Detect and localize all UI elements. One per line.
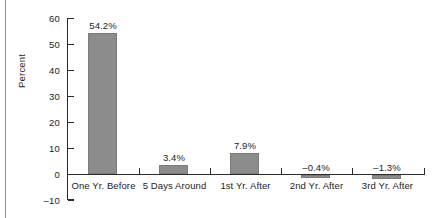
bar-value-label-3rd-yr-after: –1.3%	[362, 162, 412, 173]
bar-1st-yr-after	[230, 153, 259, 174]
y-tick-label: 10	[20, 143, 60, 154]
x-tick-mark	[210, 168, 211, 175]
x-category-label-2nd-yr-after: 2nd Yr. After	[281, 180, 352, 191]
bar-3rd-yr-after	[372, 175, 401, 179]
bar-value-label-one-yr-before: 54.2%	[78, 20, 128, 31]
x-category-label-5-days-around: 5 Days Around	[139, 180, 210, 191]
bar-value-label-5-days-around: 3.4%	[149, 152, 199, 163]
y-tick-label: 30	[20, 91, 60, 102]
y-tick-mark	[68, 44, 74, 45]
y-tick-mark	[68, 70, 74, 71]
x-axis-end-tick	[424, 168, 425, 175]
y-tick-mark	[68, 148, 74, 149]
x-tick-mark	[139, 168, 140, 175]
bar-5-days-around	[159, 165, 188, 174]
x-category-label-1st-yr-after: 1st Yr. After	[210, 180, 281, 191]
bar-one-yr-before	[88, 33, 117, 174]
y-tick-mark	[68, 96, 74, 97]
y-tick-label: –10	[20, 195, 60, 206]
y-tick-mark	[68, 122, 74, 123]
bar-value-label-2nd-yr-after: –0.4%	[291, 162, 341, 173]
x-category-label-one-yr-before: One Yr. Before	[68, 180, 139, 191]
y-tick-label: 40	[20, 65, 60, 76]
y-axis-line	[67, 18, 68, 200]
y-tick-mark	[68, 200, 74, 201]
chart-figure: Percent 60 50 40 30 20 10 0 –10	[0, 0, 440, 218]
x-tick-mark	[281, 168, 282, 175]
x-category-label-3rd-yr-after: 3rd Yr. After	[352, 180, 423, 191]
x-tick-mark	[352, 168, 353, 175]
y-tick-label: 0	[20, 169, 60, 180]
y-tick-label: 20	[20, 117, 60, 128]
y-tick-mark	[68, 18, 74, 19]
y-tick-mark	[68, 174, 74, 175]
y-tick-label: 50	[20, 39, 60, 50]
bar-value-label-1st-yr-after: 7.9%	[220, 140, 270, 151]
plot-area: Percent 60 50 40 30 20 10 0 –10	[0, 0, 440, 218]
bar-2nd-yr-after	[301, 175, 330, 178]
y-tick-label: 60	[20, 13, 60, 24]
